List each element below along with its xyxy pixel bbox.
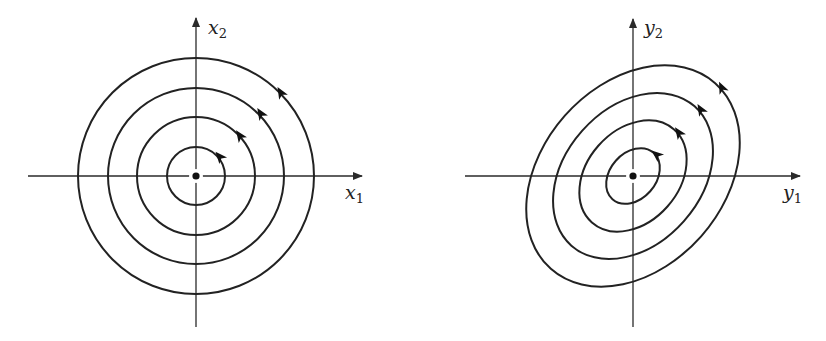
flow-direction-arrows <box>648 80 728 163</box>
x1-axis-label: x1 <box>345 181 364 206</box>
equilibrium-point <box>192 172 199 179</box>
arrowhead-icon <box>648 147 664 162</box>
arrowhead-icon <box>693 101 708 116</box>
arrowhead-icon <box>715 80 729 95</box>
x2-axis-label: x2 <box>208 16 227 41</box>
phase-portrait-figure: x2 x1 y2 y1 <box>0 0 826 341</box>
y2-axis-label: y2 <box>643 16 663 41</box>
y1-axis-label: y1 <box>782 181 802 206</box>
arrowhead-icon <box>253 105 268 120</box>
arrowhead-icon <box>273 84 288 99</box>
left-phase-portrait: x2 x1 <box>28 16 364 327</box>
arrowhead-icon <box>671 124 686 140</box>
equilibrium-point <box>629 172 636 179</box>
arrowhead-icon <box>212 148 227 164</box>
right-phase-portrait: y2 y1 <box>465 16 802 329</box>
